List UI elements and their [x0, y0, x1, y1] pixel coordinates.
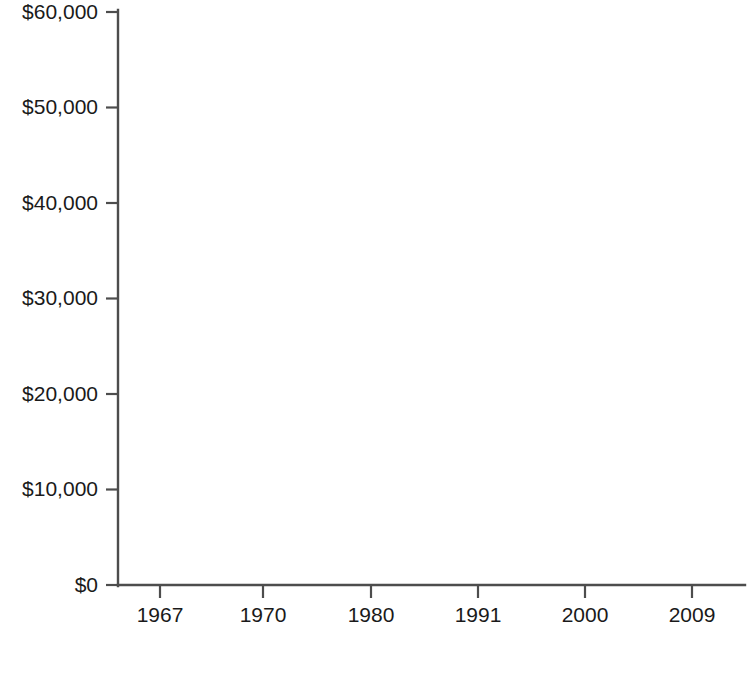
line-chart: $0$10,000$20,000$30,000$40,000$50,000$60…: [0, 0, 749, 677]
x-tick-label: 1991: [455, 603, 502, 626]
y-tick-label: $10,000: [22, 477, 98, 500]
x-tick-label: 1967: [137, 603, 184, 626]
x-tick-label: 1980: [348, 603, 395, 626]
y-tick-label: $0: [75, 573, 98, 596]
x-tick-label: 2000: [562, 603, 609, 626]
chart-canvas: $0$10,000$20,000$30,000$40,000$50,000$60…: [0, 0, 749, 677]
y-tick-label: $50,000: [22, 95, 98, 118]
x-tick-label: 2009: [669, 603, 716, 626]
chart-background: [0, 0, 749, 677]
y-tick-label: $40,000: [22, 191, 98, 214]
y-tick-label: $60,000: [22, 0, 98, 23]
y-tick-label: $30,000: [22, 286, 98, 309]
x-tick-label: 1970: [240, 603, 287, 626]
y-tick-label: $20,000: [22, 382, 98, 405]
